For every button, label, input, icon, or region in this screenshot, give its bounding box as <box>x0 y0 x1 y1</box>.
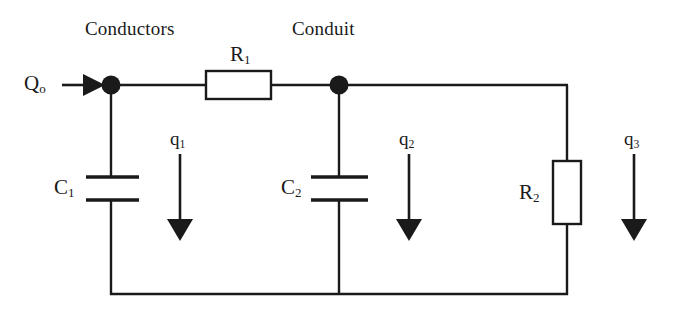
junction-node-right <box>330 76 349 95</box>
circuit-schematic-svg <box>0 0 680 311</box>
resistor-2-body <box>553 161 581 224</box>
q2-arrow-head <box>396 219 422 241</box>
resistor-1-label: R1 <box>230 44 251 66</box>
input-source-label: Qo <box>24 73 46 95</box>
resistor-2-label: R2 <box>519 182 540 204</box>
conductors-label: Conductors <box>85 19 175 38</box>
circuit-diagram-figure: Conductors Conduit R1 Qo C1 C2 R2 q1 q2 … <box>0 0 680 311</box>
branch-flow-arrow-q3 <box>621 154 647 241</box>
branch-flow-label-q2: q2 <box>399 129 414 150</box>
resistor-1-body <box>206 71 271 99</box>
q3-arrow-head <box>621 219 647 241</box>
conduit-label: Conduit <box>292 19 355 38</box>
branch-flow-arrow-q2 <box>396 154 422 241</box>
branch-flow-label-q3: q3 <box>624 129 639 150</box>
capacitor-2-label: C2 <box>281 177 302 199</box>
branch-flow-label-q1: q1 <box>170 129 185 150</box>
junction-node-left <box>102 76 121 95</box>
q1-arrow-head <box>167 219 193 241</box>
capacitor-1-label: C1 <box>54 177 75 199</box>
branch-flow-arrow-q1 <box>167 154 193 241</box>
input-flow-arrow <box>62 74 105 96</box>
